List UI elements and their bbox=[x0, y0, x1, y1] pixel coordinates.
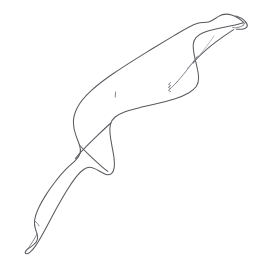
drawing-canvas bbox=[0, 0, 254, 274]
seal-line-drawing bbox=[0, 0, 254, 274]
background bbox=[0, 0, 254, 274]
